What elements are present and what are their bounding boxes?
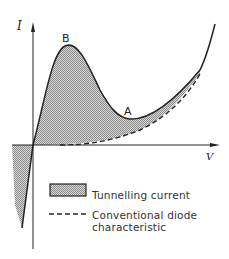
- legend-dashed-label-line1: Conventional diode: [92, 209, 197, 221]
- legend-dashed-label-line2: characteristic: [92, 221, 166, 233]
- valley-point-label: A: [124, 105, 132, 118]
- legend-shaded-label: Tunnelling current: [92, 189, 190, 201]
- y-axis-label: I: [16, 19, 22, 33]
- x-axis-arrow-icon: [210, 143, 220, 147]
- legend-shaded-swatch: [50, 184, 86, 196]
- reverse-tunnelling-region: [12, 145, 33, 228]
- peak-point-label: B: [62, 32, 70, 45]
- tunnelling-current-region: [33, 45, 200, 145]
- x-axis-label: V: [206, 151, 215, 162]
- y-axis-arrow-icon: [31, 22, 35, 32]
